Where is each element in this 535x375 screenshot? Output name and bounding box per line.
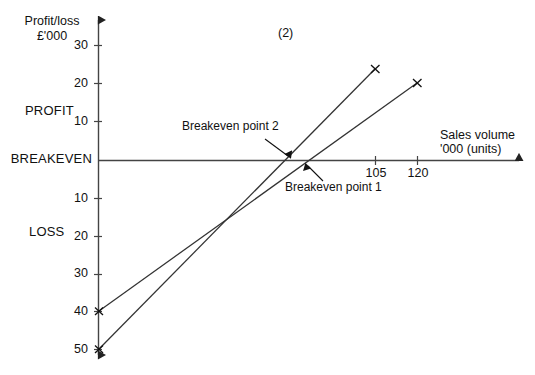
x-axis-title-line1: Sales volume bbox=[440, 128, 515, 142]
series-line-1 bbox=[99, 83, 417, 311]
y-tick-label-minus-40: 40 bbox=[40, 304, 88, 318]
breakeven-chart: Profit/loss £'000 30 20 10 BREAKEVEN 10 … bbox=[0, 0, 535, 375]
chart-canvas bbox=[0, 0, 535, 375]
x-axis-title-line2: '000 (units) bbox=[440, 142, 501, 156]
y-tick-label-minus-50: 50 bbox=[40, 342, 88, 356]
x-tick-label-105: 105 bbox=[355, 166, 397, 180]
figure-number-label: (2) bbox=[278, 26, 293, 40]
annotation-breakeven-point-1: Breakeven point 1 bbox=[285, 181, 382, 194]
y-tick-label-30: 30 bbox=[40, 38, 88, 52]
series-line-2 bbox=[99, 69, 375, 349]
y-tick-label-minus-30: 30 bbox=[40, 266, 88, 280]
y-axis-zero-label-breakeven: BREAKEVEN bbox=[0, 152, 92, 167]
y-tick-label-minus-10: 10 bbox=[40, 191, 88, 205]
y-axis-title-line1: Profit/loss bbox=[6, 14, 98, 28]
leader-breakeven-point-1 bbox=[308, 166, 323, 181]
leader-breakeven-point-2 bbox=[265, 139, 288, 156]
x-tick-label-120: 120 bbox=[397, 166, 439, 180]
y-tick-label-20: 20 bbox=[40, 76, 88, 90]
annotation-breakeven-point-2: Breakeven point 2 bbox=[182, 120, 279, 133]
region-label-profit: PROFIT bbox=[25, 104, 74, 119]
region-label-loss: LOSS bbox=[29, 225, 64, 240]
marker-line2-end bbox=[371, 65, 380, 73]
marker-line1-end bbox=[413, 79, 422, 87]
data-point-markers bbox=[95, 65, 422, 353]
